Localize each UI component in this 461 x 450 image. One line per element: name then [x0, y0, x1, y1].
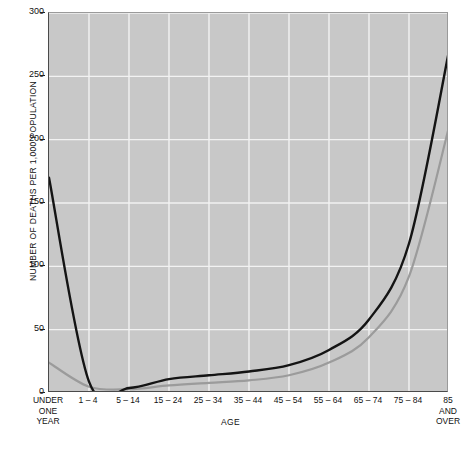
x-tick-label-line: 45 – 54: [274, 395, 302, 406]
x-tick-label: 15 – 24: [154, 395, 182, 406]
x-tick-label: 45 – 54: [274, 395, 302, 406]
y-tick-mark: [40, 265, 45, 266]
x-tick-label-line: UNDER: [33, 395, 63, 406]
x-tick-label: 75 – 84: [394, 395, 422, 406]
y-axis-ticks: 050100150200250300: [0, 0, 44, 450]
x-tick-label-line: 85: [436, 395, 460, 406]
chart-canvas: [49, 13, 448, 392]
x-tick-label-line: 65 – 74: [354, 395, 382, 406]
y-tick-label: 150: [10, 197, 44, 206]
x-tick-label-line: 15 – 24: [154, 395, 182, 406]
x-tick-label-line: 75 – 84: [394, 395, 422, 406]
x-tick-label-line: 35 – 44: [234, 395, 262, 406]
gridlines: [49, 13, 448, 392]
y-tick-label: 250: [10, 70, 44, 79]
y-tick-label: 200: [10, 134, 44, 143]
plot-area: [48, 12, 448, 392]
y-tick-label: 50: [10, 324, 44, 333]
y-tick-mark: [40, 12, 45, 13]
y-tick-mark: [40, 202, 45, 203]
x-tick-label: 25 – 34: [194, 395, 222, 406]
x-tick-label: 1 – 4: [79, 395, 98, 406]
y-tick-label: 300: [10, 7, 44, 16]
x-tick-label: 55 – 64: [314, 395, 342, 406]
x-tick-label-line: ONE: [33, 406, 63, 417]
chart-figure: NUMBER OF DEATHS PER 1,000 POPULATION 05…: [0, 0, 461, 450]
x-tick-label-line: 5 – 14: [116, 395, 140, 406]
x-tick-label-line: 1 – 4: [79, 395, 98, 406]
x-tick-label: 65 – 74: [354, 395, 382, 406]
y-tick-mark: [40, 329, 45, 330]
y-tick-label: 100: [10, 260, 44, 269]
x-tick-label: 5 – 14: [116, 395, 140, 406]
x-tick-label-line: AND: [436, 406, 460, 417]
y-tick-mark: [40, 75, 45, 76]
y-tick-mark: [40, 392, 45, 393]
x-tick-label-line: 55 – 64: [314, 395, 342, 406]
x-tick-label: 35 – 44: [234, 395, 262, 406]
x-axis-title: AGE: [0, 417, 461, 427]
x-tick-label-line: 25 – 34: [194, 395, 222, 406]
y-tick-mark: [40, 139, 45, 140]
